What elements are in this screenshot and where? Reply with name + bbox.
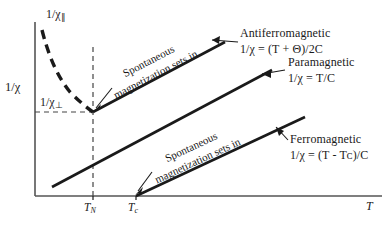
callout-ferromagnetic: Ferromagnetic 1/χ = (T - Tᴄ)/C <box>290 133 368 163</box>
paramagnetic-leader <box>262 70 285 78</box>
chi-parallel-main: 1/χ <box>46 7 61 21</box>
chi-parallel-sub: ∥ <box>61 12 66 22</box>
chi-perp-sub: ⊥ <box>55 100 63 110</box>
chi-perp-label: 1/χ⊥ <box>40 96 63 111</box>
callout-antiferromagnetic-name: Antiferromagnetic <box>240 27 330 41</box>
callout-antiferromagnetic: Antiferromagnetic 1/χ = (T + Θ)/2C <box>240 27 330 57</box>
chi-parallel-label: 1/χ∥ <box>46 8 66 23</box>
callout-paramagnetic-name: Paramagnetic <box>288 56 355 70</box>
tick-label-tn-sub: N <box>90 206 95 215</box>
x-axis-title: T <box>366 200 373 214</box>
y-axis-title: 1/χ <box>5 80 20 94</box>
susceptibility-figure: 1/χ T 1/χ∥ 1/χ⊥ TN Tc Spontaneous magnet… <box>0 0 390 226</box>
callout-paramagnetic-equation: 1/χ = T/C <box>288 72 355 86</box>
tick-label-tn: TN <box>84 201 96 215</box>
callout-ferromagnetic-equation: 1/χ = (T - Tᴄ)/C <box>290 149 368 163</box>
callout-ferromagnetic-name: Ferromagnetic <box>290 133 368 147</box>
tick-label-tc: Tc <box>128 201 138 215</box>
chi-perp-main: 1/χ <box>40 95 55 109</box>
tick-label-tc-sub: c <box>134 206 138 215</box>
plot-canvas <box>0 0 390 226</box>
callout-paramagnetic: Paramagnetic 1/χ = T/C <box>288 56 355 86</box>
